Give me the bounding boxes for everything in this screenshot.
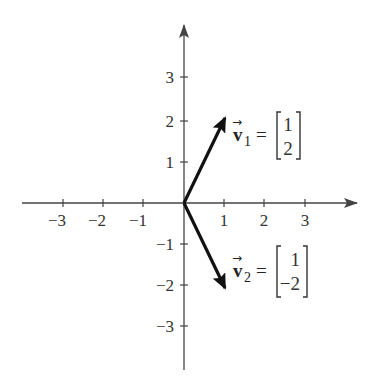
- x-tick-label: −1: [129, 211, 147, 230]
- matrix-entry: 1: [283, 114, 293, 135]
- vector-name: v: [233, 260, 243, 281]
- right-bracket: [303, 246, 307, 297]
- vector-name: v: [233, 124, 243, 145]
- equals-sign: =: [256, 260, 267, 281]
- vector-subscript: 1: [244, 134, 251, 149]
- vector-v2-label: → v 2 = 1 −2: [232, 246, 307, 297]
- x-tick-label: 3: [301, 211, 310, 230]
- coordinate-plane: −3 −2 −1 1 2 3 3 2 1 −1 −2 −3 → v 1 = 1 …: [0, 0, 378, 386]
- x-tick-label: −2: [88, 211, 106, 230]
- matrix-entry: −2: [280, 273, 300, 294]
- vector-subscript: 2: [244, 270, 251, 285]
- matrix-entry: 2: [283, 138, 293, 159]
- x-tick-label: 2: [260, 211, 269, 230]
- vector-v1-arrow: [184, 118, 225, 203]
- matrix-entry: 1: [291, 249, 301, 270]
- left-bracket: [277, 112, 281, 159]
- y-tick-label: −2: [156, 276, 174, 295]
- y-tick-label: 3: [166, 68, 175, 87]
- y-tick-label: −1: [156, 235, 174, 254]
- vector-v1-label: → v 1 = 1 2: [232, 112, 300, 159]
- y-tick-label: 1: [166, 153, 175, 172]
- y-tick-label: 2: [166, 112, 175, 131]
- x-tick-label: 1: [220, 211, 229, 230]
- equals-sign: =: [256, 124, 267, 145]
- x-tick-label: −3: [48, 211, 66, 230]
- right-bracket: [296, 112, 300, 159]
- y-tick-label: −3: [156, 317, 174, 336]
